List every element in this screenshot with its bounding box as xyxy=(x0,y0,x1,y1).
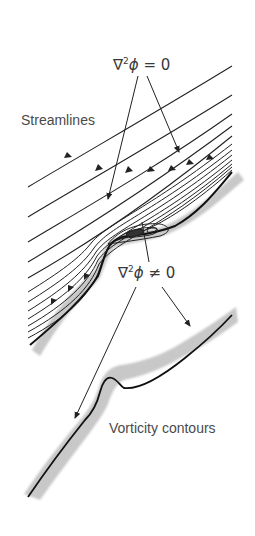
label-laplace-zero: ∇2ϕ = 0 xyxy=(113,57,170,73)
outer-streamlines xyxy=(28,66,232,278)
arrow-icon xyxy=(186,159,194,165)
phi-symbol: ϕ xyxy=(134,264,144,282)
pointer-laplace-zero xyxy=(108,76,179,199)
label-laplace-nonzero: ∇2ϕ ≠ 0 xyxy=(118,265,175,281)
arrow-icon xyxy=(51,298,57,305)
label-streamlines: Streamlines xyxy=(21,113,95,127)
equation-rest: ≠ 0 xyxy=(144,264,176,282)
nabla-symbol: ∇ xyxy=(113,56,123,74)
arrow-icon xyxy=(206,154,214,160)
arrow-icon xyxy=(125,166,133,173)
arrow-icon xyxy=(64,152,72,158)
phi-symbol: ϕ xyxy=(129,56,139,74)
arrow-icon xyxy=(95,164,103,171)
equation-rest: = 0 xyxy=(139,56,171,74)
streamline-panel xyxy=(28,66,244,356)
nabla-symbol: ∇ xyxy=(118,264,128,282)
vorticity-shade xyxy=(24,307,238,500)
label-vorticity-contours: Vorticity contours xyxy=(109,421,216,435)
